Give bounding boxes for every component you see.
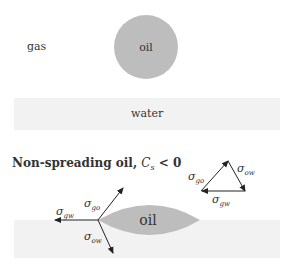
diagram-svg: oil oil σgw σgo σow σgo σow σgw [0, 0, 288, 265]
sigma-ow-label: σow [84, 230, 102, 245]
triangle-ow-label: σow [237, 162, 255, 177]
sigma-gw-label: σgw [56, 205, 74, 220]
triangle-go-arrow [201, 161, 228, 191]
sigma-go-label: σgo [84, 197, 100, 212]
triangle-go-label: σgo [188, 170, 204, 185]
oil-droplet-label: oil [139, 41, 153, 54]
triangle-gw-label: σgw [212, 193, 230, 208]
oil-lens-label: oil [139, 212, 157, 228]
